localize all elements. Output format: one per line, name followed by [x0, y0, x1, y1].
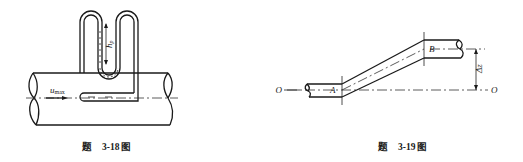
manometer-outer-tube [80, 11, 138, 97]
figure-3-18: umax hp [26, 11, 178, 152]
figure-caption-3-19: 题3-19图 [378, 141, 427, 152]
elevation-arrow-up [474, 49, 478, 54]
lower-pipe [305, 84, 342, 97]
pipe-body [29, 73, 172, 125]
inclined-pipe [342, 40, 424, 97]
head-arrow-up [104, 23, 108, 28]
elevation-label: Δz [474, 64, 484, 74]
manometer-inner-tube [84, 15, 134, 93]
figure-3-19: O O A B [276, 32, 499, 152]
pipe-left-break-back [30, 73, 38, 125]
flow-arrow-head [62, 96, 68, 100]
head-label: hp [104, 41, 114, 49]
velocity-label: umax [50, 85, 65, 95]
point-a-label: A [329, 85, 336, 95]
inclined-centerline [342, 49, 424, 90]
elevation-arrow-down [474, 85, 478, 90]
datum-label-left: O [276, 85, 283, 95]
figure-canvas: umax hp [0, 0, 523, 162]
elevation-dimension: Δz [474, 49, 484, 90]
datum-label-right: O [491, 85, 498, 95]
point-b-label: B [429, 44, 435, 54]
pipe-right-break-back [168, 73, 172, 98]
head-arrow-down [104, 60, 108, 65]
figure-caption-3-18: 题3-18图 [82, 141, 131, 152]
manometer: hp [80, 11, 138, 97]
